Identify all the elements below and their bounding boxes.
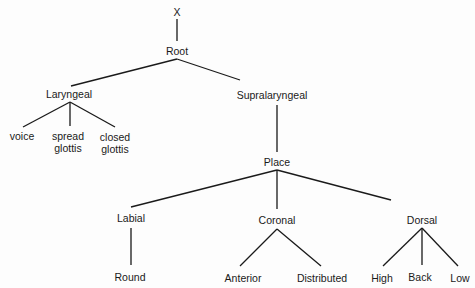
node-laryngeal: Laryngeal [46,88,92,100]
spread-glottis-line2: glottis [52,142,84,154]
node-dorsal: Dorsal [407,214,437,226]
feature-geometry-diagram: X Root Laryngeal Supralaryngeal voice sp… [0,0,475,288]
edge-coronal-anterior [240,229,277,266]
node-spread-glottis: spread glottis [52,130,84,154]
node-high: High [371,272,393,284]
node-round: Round [115,271,146,283]
node-coronal: Coronal [259,214,296,226]
edge-place-labial [131,170,277,207]
edge-place-dorsal [277,170,391,200]
node-low: Low [450,272,469,284]
edge-dorsal-low [422,228,458,266]
edge-root-laryngeal [71,59,177,86]
node-closed-glottis: closed glottis [100,131,130,155]
node-back: Back [408,271,431,283]
node-x: X [173,6,180,18]
edge-root-supralaryngeal [177,59,240,80]
node-place: Place [264,156,290,168]
edge-dorsal-high [383,228,422,266]
node-anterior: Anterior [225,272,262,284]
edge-coronal-distributed [277,229,321,266]
node-root: Root [166,45,188,57]
edge-laryngeal-closed [70,102,115,127]
closed-glottis-line1: closed [100,131,130,143]
node-supralaryngeal: Supralaryngeal [237,89,308,101]
closed-glottis-line2: glottis [100,143,130,155]
node-distributed: Distributed [297,272,347,284]
spread-glottis-line1: spread [52,130,84,142]
node-voice: voice [10,130,35,142]
edge-laryngeal-voice [23,102,70,127]
node-labial: Labial [117,212,145,224]
